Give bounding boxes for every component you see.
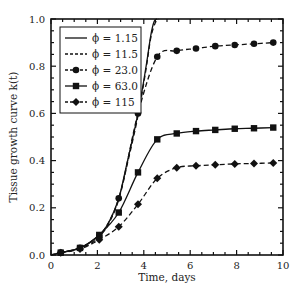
data-point-circle — [115, 195, 122, 202]
data-point-square — [116, 209, 122, 215]
y-tick-label: 0.8 — [29, 61, 45, 72]
series-line — [61, 163, 274, 253]
legend-marker-circle — [73, 67, 80, 74]
data-point-square — [232, 126, 238, 132]
legend-label: ϕ = 1.15 — [92, 32, 138, 44]
data-point-diamond — [173, 164, 181, 172]
data-point-square — [212, 127, 218, 133]
y-tick-label: 0.6 — [29, 108, 45, 119]
data-point-square — [174, 130, 180, 136]
x-tick-label: 2 — [94, 260, 100, 271]
x-tick-label: 10 — [277, 260, 290, 271]
y-tick-label: 0.4 — [29, 155, 45, 166]
y-axis-title: Tissue growth curve k(t) — [7, 72, 19, 203]
legend-marker-square — [73, 83, 79, 89]
data-point-diamond — [231, 160, 239, 168]
x-axis-title: Time, days — [138, 271, 196, 283]
data-point-square — [135, 169, 141, 175]
data-point-circle — [154, 53, 161, 60]
data-point-square — [251, 125, 257, 131]
data-point-circle — [173, 48, 180, 55]
data-point-circle — [212, 43, 219, 50]
y-tick-label: 0.2 — [29, 202, 45, 213]
y-tick-label: 1.0 — [29, 14, 45, 25]
series-3 — [58, 124, 277, 255]
growth-curve-chart: 02468100.00.20.40.60.81.0 Time, days Tis… — [0, 0, 302, 302]
data-point-square — [193, 128, 199, 134]
data-point-circle — [251, 40, 258, 47]
legend-label: ϕ = 63.0 — [92, 80, 138, 92]
data-point-diamond — [211, 161, 219, 169]
data-point-circle — [231, 42, 238, 49]
data-point-diamond — [269, 159, 277, 167]
data-point-square — [270, 124, 276, 130]
x-tick-label: 0 — [48, 260, 54, 271]
x-tick-label: 8 — [233, 260, 239, 271]
y-tick-label: 0.0 — [29, 250, 45, 261]
legend-label: ϕ = 115 — [92, 96, 135, 108]
data-point-diamond — [250, 159, 258, 167]
legend-label: ϕ = 23.0 — [92, 64, 138, 76]
data-point-circle — [270, 39, 277, 46]
legend-label: ϕ = 11.5 — [92, 48, 138, 60]
legend: ϕ = 1.15ϕ = 11.5ϕ = 23.0ϕ = 63.0ϕ = 115 — [60, 27, 141, 113]
x-tick-label: 4 — [141, 260, 147, 271]
data-point-circle — [193, 45, 200, 52]
data-point-square — [154, 136, 160, 142]
data-point-diamond — [192, 162, 200, 170]
x-tick-label: 6 — [187, 260, 193, 271]
series-line — [61, 128, 274, 253]
